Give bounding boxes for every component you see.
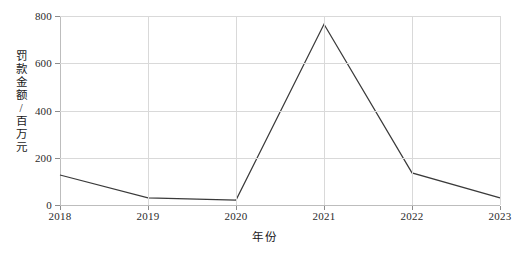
x-axis-tick-label: 2022 <box>382 210 442 222</box>
x-axis-tick <box>236 206 237 210</box>
x-axis-tick <box>148 206 149 210</box>
gridline-vertical <box>412 16 413 205</box>
x-axis-tick <box>412 206 413 210</box>
x-axis-tick-label: 2023 <box>470 210 529 222</box>
y-axis-tick-label: 800 <box>8 10 52 22</box>
x-axis-tick <box>500 206 501 210</box>
series-polyline <box>60 24 500 200</box>
x-axis-title: 年份 <box>0 228 529 244</box>
y-axis-tick-label: 600 <box>8 57 52 69</box>
gridline-horizontal <box>60 16 500 17</box>
x-axis-tick-label: 2018 <box>30 210 90 222</box>
y-axis-tick <box>55 158 60 159</box>
y-axis-tick <box>55 16 60 17</box>
y-axis-tick <box>55 111 60 112</box>
x-axis-line <box>60 205 500 206</box>
gridline-vertical <box>148 16 149 205</box>
gridline-horizontal <box>60 158 500 159</box>
gridline-vertical <box>500 16 501 205</box>
x-axis-tick <box>60 206 61 210</box>
x-axis-tick-label: 2019 <box>118 210 178 222</box>
plot-area <box>60 16 500 205</box>
x-axis-tick-label: 2020 <box>206 210 266 222</box>
y-axis-tick-label: 400 <box>8 105 52 117</box>
x-axis-tick-label: 2021 <box>294 210 354 222</box>
gridline-horizontal <box>60 63 500 64</box>
gridline-vertical <box>324 16 325 205</box>
line-chart-figure: 罚款金额/百万元 0200400600800 20182019202020212… <box>0 0 529 257</box>
gridline-vertical <box>236 16 237 205</box>
y-axis-tick <box>55 63 60 64</box>
x-axis-tick <box>324 206 325 210</box>
gridline-horizontal <box>60 111 500 112</box>
y-axis-tick-label: 200 <box>8 152 52 164</box>
